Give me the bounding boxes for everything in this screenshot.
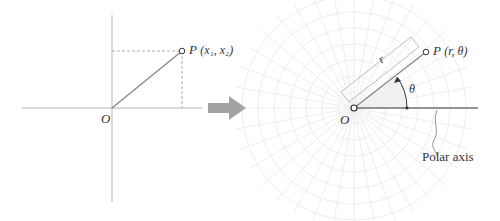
- right-arrow-icon: [208, 96, 246, 120]
- origin-marker: [351, 105, 357, 111]
- angle-label: θ: [409, 82, 415, 97]
- polar-point-label: P (r, θ): [433, 43, 467, 59]
- point-coordinates: (r, θ): [444, 44, 467, 58]
- polar-point-marker: [423, 49, 429, 55]
- cartesian-axes: [22, 15, 202, 202]
- polar-origin-label: O: [340, 112, 349, 128]
- position-segment: [112, 51, 182, 108]
- angle-wedge: [354, 77, 407, 108]
- point-p-marker: [179, 48, 185, 54]
- point-name: P: [433, 43, 441, 58]
- cartesian-origin-label: O: [101, 111, 110, 127]
- polar-axis-label: Polar axis: [422, 149, 474, 165]
- point-name: P: [189, 42, 197, 57]
- diagram-canvas: [0, 0, 500, 221]
- point-coordinates: (x₁, x₂): [200, 43, 233, 57]
- cartesian-point-label: P (x₁, x₂): [189, 42, 233, 58]
